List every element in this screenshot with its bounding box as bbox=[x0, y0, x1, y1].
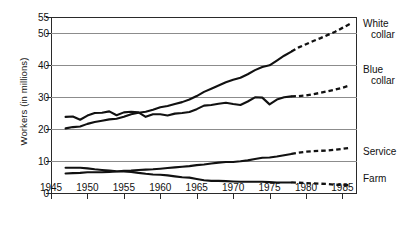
x-tick-1955 bbox=[124, 193, 125, 199]
y-tick-label-50: 50 bbox=[38, 28, 49, 39]
x-tick-1965 bbox=[197, 193, 198, 199]
series-blue-collar-historical bbox=[66, 96, 292, 119]
x-tick-1945 bbox=[51, 193, 52, 199]
series-lines bbox=[51, 17, 357, 193]
x-tick-label-1970: 1970 bbox=[222, 182, 244, 193]
x-tick-label-1955: 1955 bbox=[113, 182, 135, 193]
x-tick-1980 bbox=[306, 193, 307, 199]
series-farm-historical bbox=[66, 168, 292, 183]
plot-area bbox=[51, 17, 357, 193]
series-label-white-collar: Whitecollar bbox=[363, 19, 395, 40]
series-label-line: collar bbox=[371, 76, 395, 87]
series-label-line: Blue bbox=[363, 65, 395, 76]
x-tick-label-1945: 1945 bbox=[40, 182, 62, 193]
x-tick-label-1985: 1985 bbox=[331, 182, 353, 193]
x-tick-1970 bbox=[233, 193, 234, 199]
y-tick-label-10: 10 bbox=[38, 156, 49, 167]
x-tick-1950 bbox=[87, 193, 88, 199]
x-tick-1985 bbox=[342, 193, 343, 199]
plot-frame-bottom bbox=[51, 193, 357, 194]
series-label-line: Farm bbox=[363, 174, 386, 185]
series-blue-collar-projected bbox=[291, 85, 349, 96]
series-label-service: Service bbox=[363, 147, 396, 158]
series-label-farm: Farm bbox=[363, 174, 386, 185]
x-tick-label-1965: 1965 bbox=[186, 182, 208, 193]
y-tick-label-55: 55 bbox=[38, 12, 49, 23]
x-tick-label-1980: 1980 bbox=[295, 182, 317, 193]
series-white-collar-projected bbox=[291, 24, 349, 52]
y-axis-title: Workers (in millions) bbox=[18, 32, 29, 172]
series-label-line: Service bbox=[363, 147, 396, 158]
x-tick-label-1960: 1960 bbox=[149, 182, 171, 193]
x-tick-label-1975: 1975 bbox=[258, 182, 280, 193]
x-tick-1975 bbox=[270, 193, 271, 199]
series-label-line: White bbox=[363, 19, 395, 30]
series-service-projected bbox=[291, 148, 349, 154]
series-label-blue-collar: Bluecollar bbox=[363, 65, 395, 86]
series-white-collar-historical bbox=[66, 52, 292, 129]
y-tick-label-20: 20 bbox=[38, 124, 49, 135]
x-tick-1960 bbox=[160, 193, 161, 199]
x-tick-label-1950: 1950 bbox=[76, 182, 98, 193]
y-tick-label-30: 30 bbox=[38, 92, 49, 103]
y-tick-label-40: 40 bbox=[38, 60, 49, 71]
series-label-line: collar bbox=[371, 30, 395, 41]
employment-trends-chart: Workers (in millions) 0102030405055 1945… bbox=[0, 0, 416, 225]
